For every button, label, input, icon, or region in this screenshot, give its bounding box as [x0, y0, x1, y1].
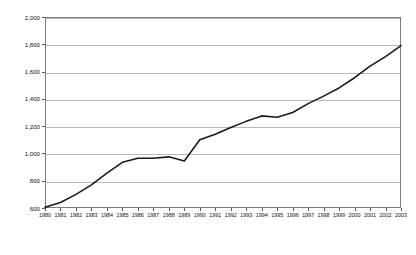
x-axis-tick-mark [262, 208, 263, 211]
y-axis-tick-label: 800 [0, 177, 40, 184]
x-axis-tick-mark [231, 208, 232, 211]
x-axis-tick-mark [277, 208, 278, 211]
y-axis-tick-label: 1,200 [0, 123, 40, 130]
x-axis-tick-label: 1993 [240, 212, 252, 218]
x-axis-tick-label: 1995 [271, 212, 283, 218]
y-axis-tick-label: 1,600 [0, 68, 40, 75]
x-axis-tick-mark [246, 208, 247, 211]
x-axis-tick-label: 1991 [209, 212, 221, 218]
x-axis-tick-mark [153, 208, 154, 211]
x-axis-tick-mark [401, 208, 402, 211]
x-axis-tick-mark [91, 208, 92, 211]
x-axis-tick-mark [386, 208, 387, 211]
x-axis-tick-label: 1980 [39, 212, 51, 218]
x-axis-tick-mark [308, 208, 309, 211]
series-line-thousand-barrels-per-day [45, 46, 401, 208]
x-axis-tick-mark [169, 208, 170, 211]
y-axis-tick-label: 1,400 [0, 95, 40, 102]
x-axis-tick-label: 1996 [287, 212, 299, 218]
x-axis-tick-mark [215, 208, 216, 211]
x-axis-tick-label: 1986 [132, 212, 144, 218]
x-axis: 1980198119821983198419851986198719881989… [45, 208, 401, 228]
x-axis-tick-label: 1992 [225, 212, 237, 218]
y-axis-tick-label: 1,000 [0, 150, 40, 157]
x-axis-tick-mark [324, 208, 325, 211]
x-axis-tick-label: 1981 [54, 212, 66, 218]
x-axis-tick-label: 1994 [256, 212, 268, 218]
y-axis-tick-label: 600 [0, 205, 40, 212]
x-axis-tick-mark [293, 208, 294, 211]
x-axis-tick-mark [339, 208, 340, 211]
x-axis-tick-label: 2001 [364, 212, 376, 218]
x-axis-tick-mark [200, 208, 201, 211]
x-axis-tick-label: 2003 [395, 212, 407, 218]
x-axis-tick-label: 1988 [163, 212, 175, 218]
x-axis-tick-mark [184, 208, 185, 211]
x-axis-tick-mark [138, 208, 139, 211]
x-axis-tick-label: 1985 [116, 212, 128, 218]
x-axis-tick-label: 1983 [85, 212, 97, 218]
x-axis-tick-label: 1997 [302, 212, 314, 218]
x-axis-tick-mark [355, 208, 356, 211]
x-axis-tick-mark [45, 208, 46, 211]
y-axis-tick-label: 2,000 [0, 14, 40, 21]
x-axis-tick-mark [122, 208, 123, 211]
series-layer [45, 17, 401, 208]
x-axis-tick-mark [60, 208, 61, 211]
x-axis-tick-label: 1984 [101, 212, 113, 218]
x-axis-tick-mark [107, 208, 108, 211]
x-axis-tick-label: 1998 [318, 212, 330, 218]
x-axis-tick-label: 2002 [380, 212, 392, 218]
line-chart: Thousand barrels per day 6008001,0001,20… [0, 0, 416, 255]
x-axis-tick-label: 2000 [349, 212, 361, 218]
x-axis-tick-label: 1990 [194, 212, 206, 218]
x-axis-tick-mark [370, 208, 371, 211]
x-axis-tick-mark [76, 208, 77, 211]
x-axis-tick-label: 1987 [147, 212, 159, 218]
x-axis-tick-label: 1982 [70, 212, 82, 218]
y-axis-tick-label: 1,800 [0, 41, 40, 48]
x-axis-tick-label: 1999 [333, 212, 345, 218]
x-axis-tick-label: 1989 [178, 212, 190, 218]
